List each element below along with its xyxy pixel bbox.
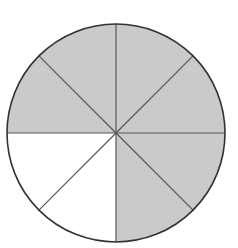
divider-lines	[7, 24, 225, 242]
fraction-circle	[0, 0, 238, 248]
